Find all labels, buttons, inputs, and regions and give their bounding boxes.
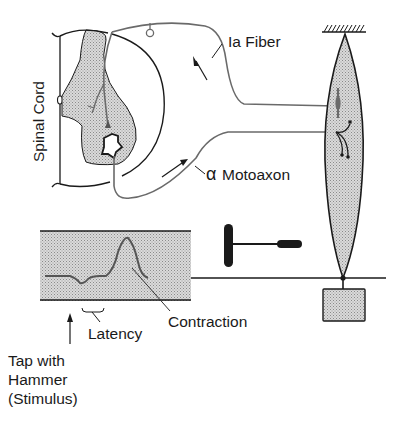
spinal-cord-label: Spinal Cord <box>30 81 47 162</box>
ia-fiber-label: Ia Fiber <box>228 33 281 50</box>
motoaxon-label: Motoaxon <box>222 166 290 183</box>
ia-fiber-path <box>112 23 336 106</box>
muscle <box>322 25 366 321</box>
motor-endplate <box>348 120 352 124</box>
spinal-cord-section: Spinal Cord <box>30 30 164 187</box>
ia-fiber: Ia Fiber <box>112 23 336 106</box>
muscle-spindle <box>335 96 340 110</box>
alpha-motoaxon: α Motoaxon <box>114 132 336 198</box>
weight-block-icon <box>323 289 365 321</box>
dorsal-root-ganglion <box>146 29 153 36</box>
stimulus-label-line2: Hammer <box>8 371 67 388</box>
stretch-reflex-diagram: Spinal Cord Ia Fiber α Motoaxon <box>0 0 402 432</box>
alpha-symbol: α <box>206 164 216 184</box>
muscle-belly <box>325 34 363 278</box>
reflex-hammer-icon <box>224 224 302 267</box>
grey-matter <box>62 30 136 165</box>
latency-label: Latency <box>88 325 143 342</box>
contraction-trace-panel: Contraction Latency Tap with Hammer (Sti… <box>8 231 247 407</box>
contraction-label: Contraction <box>168 313 247 330</box>
trace-background <box>40 231 191 301</box>
stimulus-label-line3: (Stimulus) <box>8 390 78 407</box>
stimulus-label-line1: Tap with <box>8 352 65 369</box>
